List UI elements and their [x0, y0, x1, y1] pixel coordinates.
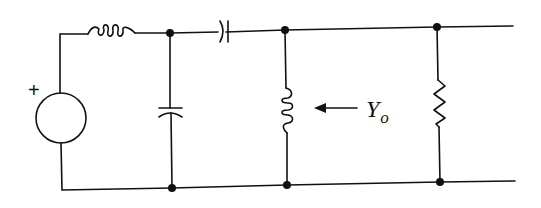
- series-inductor: [88, 25, 135, 36]
- admittance-label: Yo: [366, 96, 389, 127]
- shunt-resistor: [434, 27, 445, 182]
- voltage-source: [36, 93, 86, 143]
- admittance-arrow: [314, 103, 357, 113]
- shunt-inductor: [282, 30, 293, 185]
- polarity-plus-label: +: [28, 79, 40, 101]
- shunt-capacitor: [159, 33, 182, 188]
- circuit-diagram: + Yo: [0, 0, 541, 208]
